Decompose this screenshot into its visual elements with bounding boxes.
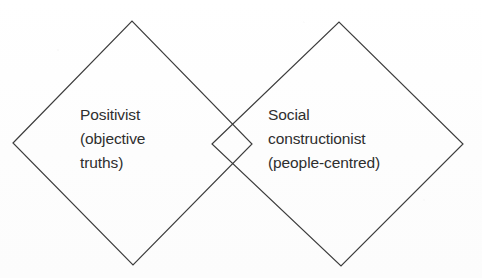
- social-constructionist-label-line-1: Social: [268, 103, 380, 127]
- diagram-canvas: Positivist (objective truths) Social con…: [0, 0, 482, 278]
- social-constructionist-label-line-2: constructionist: [268, 127, 380, 151]
- positivist-label-line-2: (objective: [80, 127, 145, 151]
- positivist-label: Positivist (objective truths): [80, 103, 145, 175]
- shape-layer: [0, 0, 482, 278]
- social-constructionist-label-line-3: (people-centred): [268, 151, 380, 175]
- positivist-label-line-3: truths): [80, 151, 145, 175]
- positivist-label-line-1: Positivist: [80, 103, 145, 127]
- social-constructionist-label: Social constructionist (people-centred): [268, 103, 380, 175]
